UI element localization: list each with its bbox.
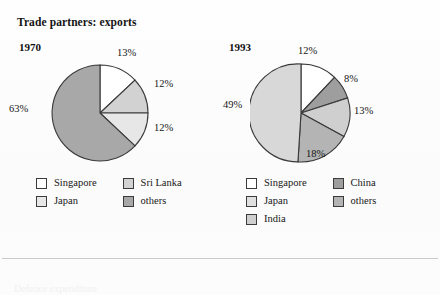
legend-item-singapore: Singapore xyxy=(36,176,97,190)
pie-chart-1993 xyxy=(250,62,352,164)
next-section-heading: Defence expenditure xyxy=(14,283,97,294)
legend-item-japan: Japan xyxy=(246,194,307,208)
chart-panel-1993: 1993 12% 8% 13% 18% 49% Singapore xyxy=(220,0,440,250)
legend-label-china: China xyxy=(351,178,376,189)
legend-label-india: India xyxy=(264,214,286,225)
chart-year-label-1993: 1993 xyxy=(229,41,251,53)
pie-chart-1970-svg xyxy=(50,63,150,163)
legend-item-singapore: Singapore xyxy=(246,176,307,190)
legend-label-japan: Japan xyxy=(54,196,78,207)
legend-swatch-singapore xyxy=(36,178,47,189)
pie-value-1970-japan: 12% xyxy=(154,122,173,133)
pie-chart-1993-svg xyxy=(250,62,352,164)
legend-item-others: others xyxy=(123,194,182,208)
pie-value-1993-india: 13% xyxy=(354,105,373,116)
legend-label-japan: Japan xyxy=(264,196,288,207)
legend-1993: Singapore Japan India China others xyxy=(246,176,376,226)
legend-item-sri-lanka: Sri Lanka xyxy=(123,176,182,190)
legend-swatch-sri-lanka xyxy=(123,178,134,189)
legend-item-india: India xyxy=(246,212,307,226)
pie-value-1970-singapore: 13% xyxy=(117,47,136,58)
legend-swatch-singapore xyxy=(246,178,257,189)
legend-1970: Singapore Japan Sri Lanka others xyxy=(36,176,182,208)
pie-value-1993-singapore: 12% xyxy=(298,45,317,56)
legend-label-sri-lanka: Sri Lanka xyxy=(141,178,182,189)
figure-page: Trade partners: exports 1970 13% 12% 12%… xyxy=(0,0,440,295)
legend-item-japan: Japan xyxy=(36,194,97,208)
pie-value-1993-china: 8% xyxy=(344,73,358,84)
legend-swatch-others xyxy=(333,196,344,207)
pie-slice-1993-others xyxy=(250,64,301,162)
pie-value-1970-sri-lanka: 12% xyxy=(154,78,173,89)
legend-label-singapore: Singapore xyxy=(264,178,307,189)
legend-label-others: others xyxy=(141,196,167,207)
legend-item-others: others xyxy=(333,194,377,208)
legend-label-others: others xyxy=(351,196,377,207)
legend-label-singapore: Singapore xyxy=(54,178,97,189)
chart-year-label-1970: 1970 xyxy=(19,41,41,53)
legend-swatch-japan xyxy=(246,196,257,207)
legend-item-china: China xyxy=(333,176,377,190)
pie-chart-1970 xyxy=(50,63,150,163)
legend-swatch-india xyxy=(246,214,257,225)
section-divider xyxy=(2,258,438,259)
legend-swatch-japan xyxy=(36,196,47,207)
legend-swatch-china xyxy=(333,178,344,189)
pie-value-1970-others: 63% xyxy=(9,103,28,114)
chart-panel-1970: 1970 13% 12% 12% 63% Singapo xyxy=(0,0,220,250)
pie-value-1993-japan: 18% xyxy=(306,148,325,159)
legend-swatch-others xyxy=(123,196,134,207)
pie-value-1993-others: 49% xyxy=(223,99,242,110)
